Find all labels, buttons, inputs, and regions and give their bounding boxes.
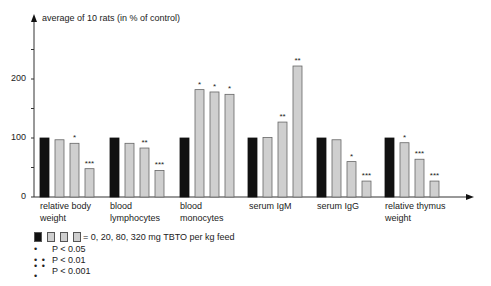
significance-marker: * xyxy=(198,80,201,89)
category-label-relative-body-weight: relative body weight xyxy=(40,200,91,224)
bar xyxy=(85,169,94,197)
category-label-serum-igg: serum IgG xyxy=(317,200,359,212)
bar xyxy=(332,140,341,197)
significance-marker: *** xyxy=(85,159,94,168)
bar xyxy=(210,92,219,197)
bar xyxy=(347,162,356,197)
significance-marker: * xyxy=(213,82,216,91)
sig-label-1: P < 0.05 xyxy=(52,244,86,254)
significance-marker: * xyxy=(73,133,76,142)
y-axis-arrow-icon xyxy=(31,14,37,22)
bar xyxy=(225,94,234,197)
bar xyxy=(415,159,424,197)
legend-dose-row: = 0, 20, 80, 320 mg TBTO per kg feed xyxy=(34,231,235,243)
significance-marker: ** xyxy=(141,138,147,147)
y-axis-title: average of 10 rats (in % of control) xyxy=(42,13,180,23)
legend-sig-row-2: • • P < 0.01 xyxy=(34,254,235,265)
bar xyxy=(317,138,326,197)
legend-sig-row-1: • P < 0.05 xyxy=(34,243,235,254)
legend-swatch-20mg xyxy=(47,232,55,242)
bar xyxy=(55,140,64,197)
bar xyxy=(140,148,149,197)
bar xyxy=(110,138,119,197)
bar xyxy=(430,181,439,197)
legend-swatch-80mg xyxy=(60,232,68,242)
significance-marker: *** xyxy=(415,149,424,158)
bars: *************************** xyxy=(40,56,439,197)
significance-marker: *** xyxy=(155,160,164,169)
legend-swatch-320mg xyxy=(73,232,81,242)
bar xyxy=(362,181,371,197)
sig-dots-3: • • • xyxy=(34,261,52,281)
bar xyxy=(180,138,189,197)
category-label-relative-thymus-weight: relative thymus weight xyxy=(385,200,446,224)
y-tick-label-200: 200 xyxy=(2,73,26,83)
x-axis-arrow-icon xyxy=(466,194,474,200)
significance-marker: * xyxy=(350,152,353,161)
legend-sig-row-3: • • • P < 0.001 xyxy=(34,265,235,276)
bar xyxy=(70,143,79,197)
bar xyxy=(40,138,49,197)
sig-label-3: P < 0.001 xyxy=(52,266,91,276)
bar xyxy=(248,138,257,197)
bar xyxy=(293,66,302,197)
legend: = 0, 20, 80, 320 mg TBTO per kg feed • P… xyxy=(34,231,235,276)
legend-dose-text: = 0, 20, 80, 320 mg TBTO per kg feed xyxy=(83,232,235,242)
bar xyxy=(400,143,409,197)
bar xyxy=(385,138,394,197)
significance-marker: *** xyxy=(362,171,371,180)
bar xyxy=(125,143,134,197)
category-label-blood-lymphocytes: blood lymphocytes xyxy=(110,200,160,224)
y-tick-label-0: 0 xyxy=(2,191,26,201)
significance-marker: * xyxy=(228,84,231,93)
legend-swatch-0mg xyxy=(34,232,42,242)
sig-label-2: P < 0.01 xyxy=(52,255,86,265)
category-label-blood-monocytes: blood monocytes xyxy=(180,200,224,224)
significance-marker: ** xyxy=(294,56,300,65)
significance-marker: *** xyxy=(430,171,439,180)
bar xyxy=(263,137,272,197)
bar xyxy=(155,170,164,197)
bar xyxy=(195,90,204,197)
significance-marker: ** xyxy=(279,112,285,121)
category-label-serum-igm: serum IgM xyxy=(249,200,292,212)
significance-marker: * xyxy=(403,133,406,142)
bar xyxy=(278,122,287,197)
y-tick-label-100: 100 xyxy=(2,132,26,142)
sig-dots-1: • xyxy=(34,244,52,254)
